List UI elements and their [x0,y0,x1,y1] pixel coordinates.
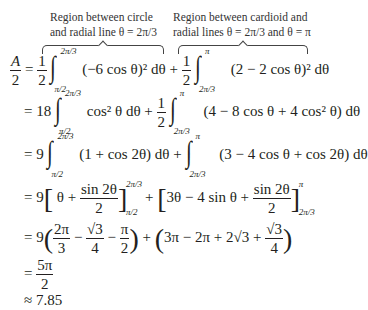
left-bracket: [ [157,183,166,214]
equals-sign: = [24,189,32,205]
fraction: sin 2θ2 [80,182,118,216]
equation-line-4: = 9[ θ + sin 2θ2]2π/3π/2 + [3θ − 4 sin θ… [24,182,300,216]
annotation-left-line2: and radial line θ = 2π/3 [50,25,157,40]
denominator: 4 [86,239,104,256]
lower-limit: 2π/3 [190,169,206,179]
integral-sign: ∫2π/3π/2 [50,54,64,88]
numerator: sin 2θ [80,182,118,199]
denominator: 3 [53,239,70,256]
coefficient: 18 [36,103,51,119]
annotation-left-line1: Region between circle [50,10,157,25]
numerator: π [120,222,130,239]
bracket-term: θ + [57,189,76,205]
coef-den: 2 [37,71,47,88]
integrand: (−6 cos θ)² dθ [82,61,166,77]
numerator: √3 [86,222,104,239]
result-fraction: 5π2 [36,258,53,292]
plus-sign: + [169,61,177,77]
lhs-numerator: A [11,53,20,69]
numerator: √3 [265,222,283,239]
integral-sign: ∫π2π/3 [195,54,209,88]
numerator: 5π [36,258,53,275]
coef-num: 1 [182,54,192,71]
annotation-right-line2: radial lines θ = 2π/3 and θ = π [173,25,311,40]
numerator: 2π [53,222,70,239]
left-bracket: [ [44,183,53,214]
lhs-fraction: A2 [10,54,21,88]
denominator: 2 [80,199,118,216]
bracket-term: 3θ − 4 sin θ + [167,189,250,205]
upper-limit: 2π/3 [60,46,76,56]
upper-limit: 2π/3 [126,179,142,189]
coef-half: 12 [182,54,192,88]
equation-line-6: = 5π2 [24,258,53,292]
upper-limit: π [180,88,185,98]
coefficient: 9 [36,189,44,205]
annotation-circle-region: Region between circle and radial line θ … [50,10,157,40]
numerator: sin 2θ [253,182,291,199]
integrand: cos² θ dθ [87,103,141,119]
integrand: (3 − 4 cos θ + cos 2θ) dθ [219,146,367,162]
coef-half: 12 [37,54,47,88]
coef-half: 12 [157,96,167,130]
plus-sign: + [142,229,150,245]
equation-line-7: ≈ 7.85 [24,292,62,309]
coef-num: 1 [157,96,167,113]
upper-limit: π [299,179,304,189]
integral-sign: ∫2π/3π/2 [47,139,61,173]
paren-term: 3π − 2π + 2√3 + [164,229,262,245]
integrand: (1 + cos 2θ) dθ [79,146,169,162]
integrand: (2 − 2 cos θ)² dθ [231,61,330,77]
equation-line-2: = 18 ∫2π/3π/2 cos² θ dθ + 12 ∫π2π/3 (4 −… [24,96,360,130]
integral-sign: ∫π2π/3 [170,96,184,130]
integral-sign: ∫2π/3π/2 [55,96,69,130]
coef-den: 2 [182,71,192,88]
coefficient: 9 [36,229,44,245]
equals-sign: = [24,146,32,162]
lower-limit: 2π/3 [199,84,215,94]
equals-sign: = [24,265,32,281]
equation-line-5: = 9(2π3 − √34 − π2) + (3π − 2π + 2√3 + √… [24,222,292,256]
plus-sign: + [173,146,181,162]
coef-num: 1 [37,54,47,71]
upper-limit: π [205,46,210,56]
fraction: sin 2θ2 [253,182,291,216]
coefficient: 9 [36,146,44,162]
left-paren: ( [155,223,164,254]
equals-sign: = [24,229,32,245]
minus-sign: − [108,229,116,245]
annotation-cardioid-region: Region between cardioid and radial lines… [173,10,311,40]
denominator: 2 [36,275,53,292]
equation-line-3: = 9 ∫2π/3π/2 (1 + cos 2θ) dθ + ∫π2π/3 (3… [24,139,368,173]
approx-value: 7.85 [36,292,62,308]
integrand: (4 − 8 cos θ + 4 cos² θ) dθ [204,103,361,119]
equals-sign: = [24,103,32,119]
lower-limit: π/2 [51,169,63,179]
upper-limit: π [196,131,201,141]
plus-sign: + [145,189,153,205]
left-paren: ( [44,223,53,254]
fraction: √34 [86,222,104,256]
fraction: π2 [120,222,130,256]
equals-sign: = [25,61,33,77]
upper-limit: 2π/3 [57,131,73,141]
minus-sign: − [74,229,82,245]
denominator: 2 [253,199,291,216]
denominator: 2 [120,239,130,256]
fraction: 2π3 [53,222,70,256]
right-paren: ) [283,223,292,254]
fraction: √34 [265,222,283,256]
annotation-right-line1: Region between cardioid and [173,10,311,25]
lhs-denominator: 2 [10,71,21,88]
lower-limit: π/2 [126,207,138,217]
plus-sign: + [144,103,152,119]
denominator: 4 [265,239,283,256]
approx-sign: ≈ [24,292,32,308]
equation-line-1: A2 = 12 ∫2π/3π/2 (−6 cos θ)² dθ + 12 ∫π2… [10,54,329,88]
right-paren: ) [129,223,138,254]
upper-limit: 2π/3 [65,88,81,98]
coef-den: 2 [157,113,167,130]
lower-limit: 2π/3 [299,207,315,217]
integral-sign: ∫π2π/3 [186,139,200,173]
